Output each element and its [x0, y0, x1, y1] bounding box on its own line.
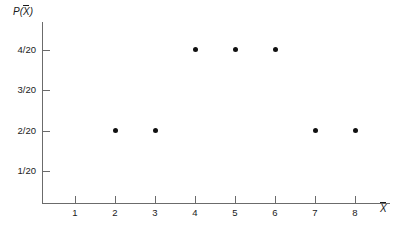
y-axis-title-barred-variable: X [23, 6, 30, 17]
y-axis-title-prefix: P( [13, 6, 23, 17]
x-axis-tick [195, 196, 196, 203]
probability-scatter-chart: P(X) X 1/202/203/204/20 12345678 [0, 0, 401, 237]
x-axis-tick-label: 1 [65, 207, 85, 218]
x-axis-tick-label: 6 [265, 207, 285, 218]
data-point [113, 128, 118, 133]
y-axis-tick [43, 90, 50, 91]
y-axis-title-suffix: ) [30, 6, 33, 17]
y-axis-tick-label: 1/20 [0, 166, 36, 176]
x-axis-tick [75, 196, 76, 203]
data-point [153, 128, 158, 133]
x-axis-tick [235, 196, 236, 203]
y-axis-tick [43, 131, 50, 132]
y-axis-tick [43, 50, 50, 51]
data-point [313, 128, 318, 133]
x-axis-tick [275, 196, 276, 203]
y-axis-tick-label: 2/20 [0, 126, 36, 136]
x-axis-tick [355, 196, 356, 203]
x-axis-line [42, 203, 390, 204]
data-point [193, 47, 198, 52]
x-axis-tick-label: 4 [185, 207, 205, 218]
y-axis-title: P(X) [13, 6, 33, 17]
y-axis-tick-label: 3/20 [0, 85, 36, 95]
data-point [353, 128, 358, 133]
data-point [233, 47, 238, 52]
x-axis-tick-label: 3 [145, 207, 165, 218]
x-axis-tick [115, 196, 116, 203]
x-axis-title-barred-variable: X [380, 203, 387, 214]
data-point [273, 47, 278, 52]
x-axis-tick-label: 7 [305, 207, 325, 218]
x-axis-tick [315, 196, 316, 203]
y-axis-tick-label: 4/20 [0, 45, 36, 55]
y-axis-tick [43, 171, 50, 172]
x-axis-tick [155, 196, 156, 203]
x-axis-tick-label: 2 [105, 207, 125, 218]
x-axis-title: X [380, 203, 387, 214]
x-axis-tick-label: 8 [345, 207, 365, 218]
x-axis-tick-label: 5 [225, 207, 245, 218]
